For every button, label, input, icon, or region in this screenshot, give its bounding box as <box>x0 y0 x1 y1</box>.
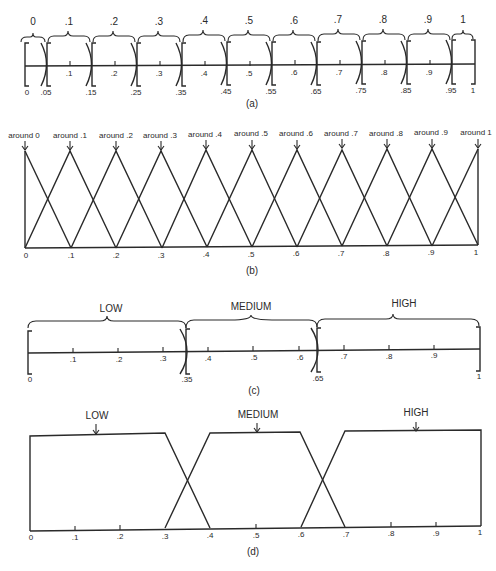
svg-text:.65: .65 <box>312 374 324 383</box>
high-membership <box>301 430 481 527</box>
panel-b-fuzzy-numbers: around 0 around .1 around .2 around .3 a… <box>8 128 492 276</box>
svg-text:.1: .1 <box>65 16 74 27</box>
svg-text:1: 1 <box>477 372 482 381</box>
svg-text:.8: .8 <box>388 529 395 538</box>
panel-c-caption: (c) <box>248 385 260 396</box>
svg-text:.85: .85 <box>400 86 412 95</box>
svg-text:.2: .2 <box>111 69 118 78</box>
svg-text:.4: .4 <box>200 15 209 26</box>
svg-text:.45: .45 <box>220 87 232 96</box>
panel-b-axis-labels: 0 .1 .2 .3 .4 .5 .6 .7 .8 .9 1 <box>24 248 479 260</box>
svg-text:around 0: around 0 <box>8 131 40 140</box>
svg-text:.8: .8 <box>383 249 390 258</box>
svg-text:HIGH: HIGH <box>392 298 417 309</box>
svg-text:.3: .3 <box>155 16 164 27</box>
svg-text:.1: .1 <box>72 533 79 542</box>
svg-text:LOW: LOW <box>100 303 123 314</box>
svg-text:.35: .35 <box>175 88 187 97</box>
svg-text:1: 1 <box>460 14 466 25</box>
svg-text:.4: .4 <box>203 250 210 259</box>
svg-text:.95: .95 <box>445 86 457 95</box>
svg-text:.4: .4 <box>201 69 208 78</box>
svg-text:.5: .5 <box>253 531 260 540</box>
svg-text:.15: .15 <box>85 88 97 97</box>
svg-text:.4: .4 <box>205 354 212 363</box>
membership-function-figure: 0 .1 .2 .3 .4 .5 .6 .7 .8 .9 1 .1 .2 .3 … <box>0 0 496 571</box>
svg-text:MEDIUM: MEDIUM <box>231 301 272 312</box>
svg-text:around .4: around .4 <box>188 130 222 139</box>
svg-text:.2: .2 <box>116 355 123 364</box>
svg-text:.9: .9 <box>424 14 433 25</box>
svg-text:.35: .35 <box>181 375 193 384</box>
svg-text:0: 0 <box>24 251 29 260</box>
svg-text:.9: .9 <box>431 351 438 360</box>
panel-c-set-labels: LOW MEDIUM HIGH <box>100 298 417 314</box>
svg-text:1: 1 <box>474 248 479 257</box>
svg-text:.6: .6 <box>290 15 299 26</box>
svg-text:.1: .1 <box>66 69 73 78</box>
panel-b-triangles <box>25 149 478 248</box>
svg-text:.4: .4 <box>207 531 214 540</box>
svg-text:.25: .25 <box>130 88 142 97</box>
svg-text:.5: .5 <box>245 15 254 26</box>
svg-text:.3: .3 <box>162 532 169 541</box>
svg-text:.5: .5 <box>248 250 255 259</box>
svg-text:around .1: around .1 <box>53 131 87 140</box>
svg-text:0: 0 <box>25 88 30 97</box>
panel-d-set-labels: LOW MEDIUM HIGH <box>86 407 429 421</box>
svg-text:0: 0 <box>29 533 34 542</box>
panel-b-caption: (b) <box>246 265 258 276</box>
svg-text:.2: .2 <box>110 16 119 27</box>
svg-text:0: 0 <box>30 16 36 27</box>
panel-a-boundary-labels: 0 .05 .15 .25 .35 .45 .55 .65 .75 .85 .9… <box>25 86 476 97</box>
panel-d-fuzzy-sets: LOW MEDIUM HIGH 0 .1 .2 .3 .4 .5 .6 .7 .… <box>29 407 483 557</box>
svg-text:MEDIUM: MEDIUM <box>238 409 279 420</box>
svg-text:.7: .7 <box>343 530 350 539</box>
svg-text:.1: .1 <box>70 355 77 364</box>
panel-a-crisp-intervals: 0 .1 .2 .3 .4 .5 .6 .7 .8 .9 1 .1 .2 .3 … <box>21 14 476 109</box>
medium-membership <box>165 432 345 528</box>
svg-text:.7: .7 <box>341 352 348 361</box>
svg-text:.6: .6 <box>298 530 305 539</box>
svg-text:.3: .3 <box>158 251 165 260</box>
svg-text:.55: .55 <box>265 87 277 96</box>
panel-d-caption: (d) <box>247 546 259 557</box>
svg-text:around .3: around .3 <box>143 131 177 140</box>
panel-b-arrow-icons <box>22 139 481 150</box>
panel-b-peak-labels: around 0 around .1 around .2 around .3 a… <box>8 128 492 140</box>
svg-text:.75: .75 <box>355 86 367 95</box>
panel-c-crisp-sets: LOW MEDIUM HIGH .1 .2 .3 .4 .5 .6 .7 .8 … <box>28 298 482 396</box>
svg-text:.05: .05 <box>40 88 52 97</box>
panel-a-caption: (a) <box>246 98 258 109</box>
svg-text:around 1: around 1 <box>460 128 492 137</box>
svg-text:.6: .6 <box>297 353 304 362</box>
svg-text:around .9: around .9 <box>414 128 448 137</box>
svg-text:.2: .2 <box>117 532 124 541</box>
panel-a-braces <box>21 29 473 42</box>
svg-text:around .7: around .7 <box>324 129 358 138</box>
panel-d-membership-functions <box>30 430 481 531</box>
svg-text:.6: .6 <box>293 249 300 258</box>
panel-a-top-labels: 0 .1 .2 .3 .4 .5 .6 .7 .8 .9 1 <box>30 14 466 27</box>
svg-text:1: 1 <box>478 528 483 537</box>
svg-text:.5: .5 <box>251 353 258 362</box>
svg-text:0: 0 <box>28 375 33 384</box>
panel-a-tick-labels: .1 .2 .3 .4 .5 .6 .7 .8 .9 <box>66 68 433 78</box>
svg-text:.9: .9 <box>426 68 433 77</box>
svg-text:.1: .1 <box>68 251 75 260</box>
svg-text:.3: .3 <box>156 69 163 78</box>
panel-c-boundary-labels: 0 .35 .65 1 <box>28 372 482 384</box>
panel-c-tick-labels: .1 .2 .3 .4 .5 .6 .7 .8 .9 <box>70 351 438 364</box>
svg-text:around .8: around .8 <box>369 129 403 138</box>
panel-c-braces <box>28 314 479 328</box>
svg-text:.9: .9 <box>433 529 440 538</box>
svg-text:.8: .8 <box>381 68 388 77</box>
svg-text:around .5: around .5 <box>234 129 268 138</box>
svg-text:.7: .7 <box>334 14 343 25</box>
svg-text:1: 1 <box>471 86 476 95</box>
svg-text:.6: .6 <box>291 68 298 77</box>
svg-text:.2: .2 <box>113 251 120 260</box>
svg-text:.7: .7 <box>336 68 343 77</box>
svg-text:.7: .7 <box>338 249 345 258</box>
low-membership <box>30 433 210 531</box>
